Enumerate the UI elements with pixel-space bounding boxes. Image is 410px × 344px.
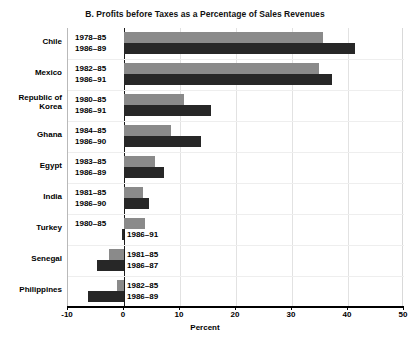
- period-label-india-1981-85: 1981–85: [75, 188, 106, 198]
- country-label-line1: Turkey: [0, 223, 62, 233]
- row-separator: [68, 90, 404, 91]
- period-label-philippines-1986-89: 1986–89: [127, 292, 158, 302]
- period-label-egypt-1983-85: 1983–85: [75, 157, 106, 167]
- gridline-40: [348, 28, 349, 307]
- country-label-republic-of-korea: Republic ofKorea: [0, 93, 62, 112]
- x-tick-label--10: -10: [61, 310, 73, 319]
- bar-mexico-1986-91: [124, 74, 332, 85]
- bar-india-1986-90: [124, 198, 149, 209]
- row-separator: [68, 214, 404, 215]
- bar-turkey-1980-85: [124, 218, 145, 229]
- country-label-india: India: [0, 192, 62, 202]
- row-separator: [68, 276, 404, 277]
- plot-area: [67, 28, 403, 307]
- bar-senegal-1986-87: [97, 260, 124, 271]
- bar-egypt-1986-89: [124, 167, 164, 178]
- chart-title: B. Profits before Taxes as a Percentage …: [0, 9, 410, 19]
- x-tick-label-10: 10: [175, 310, 184, 319]
- country-label-line1: India: [0, 192, 62, 202]
- period-label-ghana-1986-90: 1986–90: [75, 137, 106, 147]
- country-label-turkey: Turkey: [0, 223, 62, 233]
- x-axis-title: Percent: [0, 323, 410, 332]
- row-separator: [68, 152, 404, 153]
- row-separator: [68, 183, 404, 184]
- country-label-line1: Senegal: [0, 254, 62, 264]
- bar-philippines-1986-89: [88, 291, 124, 302]
- country-label-egypt: Egypt: [0, 161, 62, 171]
- period-label-egypt-1986-89: 1986–89: [75, 168, 106, 178]
- bar-egypt-1983-85: [124, 156, 155, 167]
- period-label-philippines-1982-85: 1982–85: [127, 281, 158, 291]
- period-label-republic-of-korea-1980-85: 1980–85: [75, 95, 106, 105]
- period-label-senegal-1981-85: 1981–85: [127, 250, 158, 260]
- period-label-india-1986-90: 1986–90: [75, 199, 106, 209]
- bar-senegal-1981-85: [109, 249, 124, 260]
- period-label-mexico-1986-91: 1986–91: [75, 75, 106, 85]
- period-label-senegal-1986-87: 1986–87: [127, 261, 158, 271]
- bar-ghana-1984-85: [124, 125, 171, 136]
- x-tick-label-20: 20: [231, 310, 240, 319]
- row-separator: [68, 59, 404, 60]
- country-label-chile: Chile: [0, 37, 62, 47]
- bar-india-1981-85: [124, 187, 143, 198]
- country-label-line2: Korea: [0, 102, 62, 112]
- country-label-line1: Chile: [0, 37, 62, 47]
- x-tick-label-50: 50: [399, 310, 408, 319]
- country-label-line1: Ghana: [0, 130, 62, 140]
- period-label-chile-1978-85: 1978–85: [75, 33, 106, 43]
- country-label-senegal: Senegal: [0, 254, 62, 264]
- bar-ghana-1986-90: [124, 136, 201, 147]
- x-tick-label-30: 30: [287, 310, 296, 319]
- country-label-line1: Republic of: [0, 93, 62, 103]
- bar-philippines-1982-85: [117, 280, 124, 291]
- period-label-republic-of-korea-1986-91: 1986–91: [75, 106, 106, 116]
- bar-republic-of-korea-1980-85: [124, 94, 184, 105]
- bar-republic-of-korea-1986-91: [124, 105, 211, 116]
- row-separator: [68, 121, 404, 122]
- x-tick-label-0: 0: [121, 310, 125, 319]
- country-label-ghana: Ghana: [0, 130, 62, 140]
- country-label-line1: Philippines: [0, 285, 62, 295]
- country-label-philippines: Philippines: [0, 285, 62, 295]
- bar-turkey-1986-91: [122, 229, 124, 240]
- bar-mexico-1982-85: [124, 63, 319, 74]
- chart-figure: B. Profits before Taxes as a Percentage …: [0, 0, 410, 344]
- row-separator: [68, 245, 404, 246]
- bar-chile-1978-85: [124, 32, 323, 43]
- period-label-ghana-1984-85: 1984–85: [75, 126, 106, 136]
- period-label-mexico-1982-85: 1982–85: [75, 64, 106, 74]
- country-label-mexico: Mexico: [0, 68, 62, 78]
- bar-chile-1986-89: [124, 43, 355, 54]
- x-tick-label-40: 40: [343, 310, 352, 319]
- period-label-chile-1986-89: 1986–89: [75, 44, 106, 54]
- country-label-line1: Egypt: [0, 161, 62, 171]
- period-label-turkey-1980-85: 1980–85: [75, 219, 106, 229]
- country-label-line1: Mexico: [0, 68, 62, 78]
- period-label-turkey-1986-91: 1986–91: [127, 230, 158, 240]
